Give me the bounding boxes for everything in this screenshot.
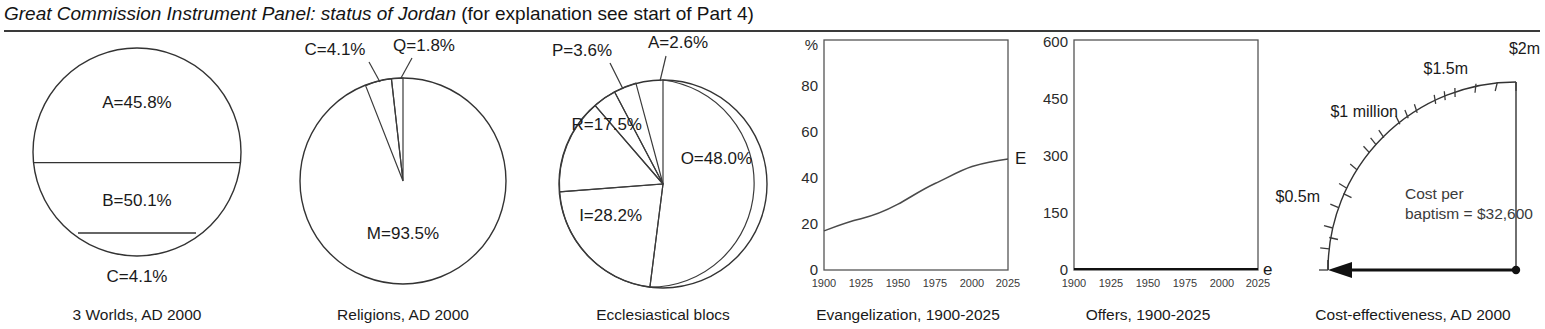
page-title: Great Commission Instrument Panel: statu… (4, 2, 1541, 30)
cost-effectiveness-gauge: $0.5m $1 million $1.5m $2m Cost per bapt… (1282, 34, 1544, 302)
chart-ecclesiastical-blocs: O=48.0% I=28.2% R=17.5% P=3.6% A=2.6% Ec… (538, 34, 788, 326)
wedge-i (560, 184, 663, 287)
leader-line-a (660, 56, 666, 81)
gauge-note-line2: baptism = $32,600 (1405, 205, 1533, 222)
x-tick-1950: 1950 (1136, 277, 1160, 289)
x-tick-1925: 1925 (1099, 277, 1123, 289)
label-bloc-p: P=3.6% (552, 41, 612, 60)
chart-religions: M=93.5% C=4.1% Q=1.8% Religions, AD 2000 (272, 34, 534, 326)
circle-outline (33, 48, 241, 256)
y-tick-40: 40 (801, 169, 818, 186)
religions-pie: M=93.5% C=4.1% Q=1.8% (272, 34, 534, 302)
caption-evangelization: Evangelization, 1900-2025 (784, 306, 1032, 324)
title-divider (4, 30, 1540, 32)
label-religion-c: C=4.1% (305, 40, 366, 59)
caption-ecclesiastical-blocs: Ecclesiastical blocs (538, 306, 788, 324)
label-religion-m: M=93.5% (367, 224, 439, 243)
page-title-roman: (for explanation see start of Part 4) (456, 3, 754, 24)
gauge-label-1m: $1 million (1330, 103, 1398, 120)
y-tick-300: 300 (1043, 147, 1068, 164)
instrument-panel: Great Commission Instrument Panel: statu… (0, 0, 1545, 329)
caption-offers: Offers, 1900-2025 (1022, 306, 1274, 324)
gauge-label-0-5m: $0.5m (1276, 188, 1320, 205)
y-tick-0: 0 (1060, 261, 1068, 278)
y-tick-0: 0 (810, 261, 818, 278)
x-tick-2000: 2000 (1210, 277, 1234, 289)
label-world-c: C=4.1% (107, 267, 168, 286)
leader-line-p (610, 63, 623, 89)
three-worlds-banded-circle: A=45.8% B=50.1% C=4.1% (6, 34, 268, 302)
evangelization-line-chart: % 80 60 40 20 0 1900 1925 1950 1975 2000… (784, 34, 1032, 302)
chart-three-worlds: A=45.8% B=50.1% C=4.1% 3 Worlds, AD 2000 (6, 34, 268, 326)
y-tick-80: 80 (801, 77, 818, 94)
chart-cost-effectiveness: $0.5m $1 million $1.5m $2m Cost per bapt… (1282, 34, 1544, 326)
chart-offers: 600 450 300 150 0 1900 1925 1950 1975 20… (1022, 34, 1274, 326)
series-line-E (824, 159, 1008, 231)
plot-frame (1074, 40, 1258, 270)
label-bloc-a: A=2.6% (648, 33, 708, 52)
label-religion-q: Q=1.8% (393, 36, 455, 55)
label-world-b: B=50.1% (102, 191, 171, 210)
ecclesiastical-pie: O=48.0% I=28.2% R=17.5% P=3.6% A=2.6% (538, 34, 788, 302)
gauge-needle-arrowhead (1328, 262, 1352, 278)
gauge-label-2m: $2m (1509, 40, 1540, 57)
y-tick-60: 60 (801, 123, 818, 140)
label-bloc-o: O=48.0% (681, 149, 752, 168)
x-tick-1900: 1900 (812, 277, 836, 289)
page-title-italic: Great Commission Instrument Panel: statu… (4, 3, 456, 24)
y-axis-unit: % (805, 36, 818, 53)
x-tick-1975: 1975 (923, 277, 947, 289)
caption-cost-effectiveness: Cost-effectiveness, AD 2000 (1282, 306, 1544, 324)
x-tick-1975: 1975 (1173, 277, 1197, 289)
y-tick-20: 20 (801, 215, 818, 232)
leader-line-c (369, 62, 380, 82)
caption-religions: Religions, AD 2000 (272, 306, 534, 324)
x-tick-1925: 1925 (849, 277, 873, 289)
gauge-note-line1: Cost per (1405, 185, 1464, 202)
wedge-p (595, 92, 663, 184)
gauge-label-1-5m: $1.5m (1424, 60, 1468, 77)
wedge-c (366, 79, 403, 181)
caption-three-worlds: 3 Worlds, AD 2000 (6, 306, 268, 324)
label-bloc-r: R=17.5% (572, 115, 642, 134)
leader-line-q (401, 58, 412, 78)
label-world-a: A=45.8% (102, 93, 171, 112)
offers-line-chart: 600 450 300 150 0 1900 1925 1950 1975 20… (1022, 34, 1274, 302)
x-tick-2025: 2025 (996, 277, 1020, 289)
x-tick-1900: 1900 (1062, 277, 1086, 289)
x-tick-2000: 2000 (960, 277, 984, 289)
y-tick-600: 600 (1043, 33, 1068, 50)
plot-frame (824, 40, 1008, 270)
gauge-pivot (1512, 266, 1520, 274)
series-label-e: e (1263, 260, 1272, 279)
label-bloc-i: I=28.2% (579, 206, 642, 225)
chart-evangelization: % 80 60 40 20 0 1900 1925 1950 1975 2000… (784, 34, 1032, 326)
y-tick-450: 450 (1043, 90, 1068, 107)
x-tick-1950: 1950 (886, 277, 910, 289)
y-tick-150: 150 (1043, 204, 1068, 221)
